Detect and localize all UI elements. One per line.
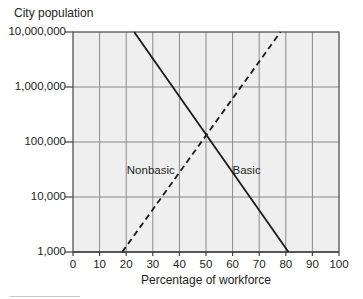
decorative-divider [10,296,80,297]
y-tick-label: 1,000 [37,245,66,257]
y-tick-label: 10,000 [31,190,66,202]
x-tick-label: 20 [120,258,133,270]
x-tick-label: 80 [279,258,292,270]
y-tick-label: 1,000,000 [15,80,66,92]
x-tick-label: 0 [70,258,76,270]
x-tick-label: 40 [173,258,186,270]
x-tick-label: 70 [253,258,266,270]
x-tick-label: 100 [329,258,348,270]
y-tick-label: 10,000,000 [8,25,66,37]
x-tick-label: 60 [226,258,239,270]
x-tick-label: 50 [200,258,213,270]
x-tick-label: 30 [146,258,159,270]
x-tick-label: 10 [93,258,106,270]
y-tick-label: 100,000 [24,135,66,147]
series-label-basic: Basic [233,164,261,176]
x-axis-title: Percentage of workforce [141,273,271,287]
series-label-nonbasic: Nonbasic [127,164,175,176]
x-tick-label: 90 [306,258,319,270]
